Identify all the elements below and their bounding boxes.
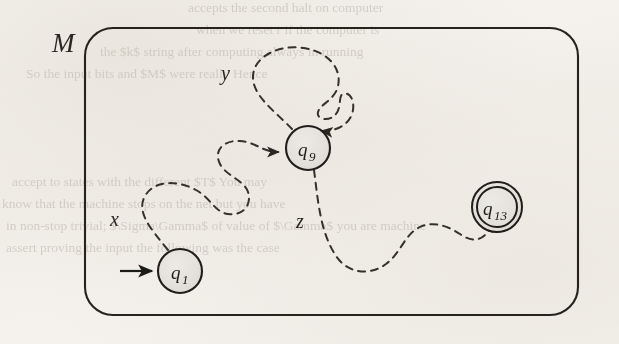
state-q1: q 1 [158,249,202,293]
automaton-diagram: M q 1 q 9 [0,0,619,344]
transition-path-x [142,141,278,250]
state-q13-subscript: 13 [494,208,508,223]
state-q9-label: q [298,139,308,160]
transition-path-z [314,170,496,272]
state-q13-outer-circle [472,182,522,232]
state-q9-subscript: 9 [309,149,316,164]
state-q13-label: q [483,198,493,219]
transition-label-x: x [109,208,119,230]
state-q1-label: q [171,262,181,283]
transition-label-y: y [219,62,230,85]
figure-page: accepts the second halt on computer when… [0,0,619,344]
state-q9: q 9 [286,126,330,170]
state-q13: q 13 [472,182,522,232]
state-q9-circle [286,126,330,170]
machine-label: M [51,28,76,58]
transition-label-z: z [295,210,304,232]
transition-path-y [253,47,353,131]
state-q1-subscript: 1 [182,272,189,287]
